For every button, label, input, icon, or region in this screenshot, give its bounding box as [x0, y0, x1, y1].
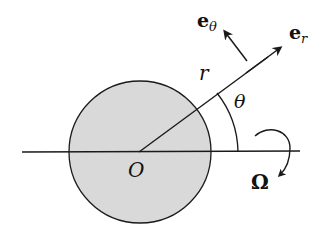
r-label: r: [199, 61, 210, 85]
omega-label: Ω: [251, 170, 269, 194]
omega-rotation-arrow: [255, 130, 290, 175]
horizontal-axis: [22, 151, 300, 152]
e-theta-label: eθ: [197, 9, 217, 34]
e-r-label: er: [289, 21, 308, 46]
e-theta-arrow: [225, 32, 247, 61]
diagram-canvas: eθ er r θ O Ω: [0, 0, 330, 233]
polar-coordinates-diagram: eθ er r θ O Ω: [0, 0, 330, 233]
origin-label: O: [128, 158, 144, 182]
theta-label: θ: [234, 90, 246, 112]
e-r-arrow: [246, 48, 280, 73]
